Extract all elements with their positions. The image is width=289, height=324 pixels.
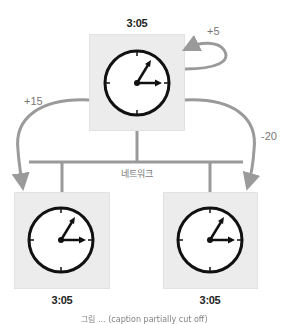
right-clock-time: 3:05 <box>200 294 221 306</box>
self-loop-arrow <box>185 43 226 69</box>
left-arrow <box>18 100 89 182</box>
left-clock-time: 3:05 <box>52 294 73 306</box>
left-adjustment-label: +15 <box>24 95 43 107</box>
top-clock-time: 3:05 <box>127 17 148 29</box>
right-arrow <box>185 100 254 182</box>
self-adjustment-label: +5 <box>207 25 220 37</box>
network-label: 네트워크 <box>121 167 153 180</box>
right-adjustment-label: -20 <box>261 130 277 142</box>
top-clock-icon <box>105 51 169 115</box>
network-bus <box>29 131 243 192</box>
left-clock-icon <box>29 208 93 272</box>
figure-caption: 그림 ... (caption partially cut off) <box>81 313 207 324</box>
right-clock-icon <box>178 208 242 272</box>
